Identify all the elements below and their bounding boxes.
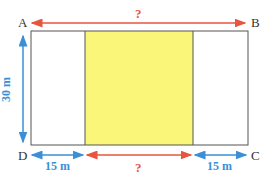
yellow-region — [85, 31, 193, 145]
vertex-c: C — [251, 148, 260, 164]
height-label: 30 m — [0, 77, 14, 102]
left-segment-label: 15 m — [45, 159, 70, 174]
rectangle-diagram — [0, 0, 267, 183]
top-length-label: ? — [135, 6, 142, 22]
vertex-d: D — [18, 148, 27, 164]
vertex-b: B — [251, 15, 260, 31]
right-segment-label: 15 m — [207, 159, 232, 174]
bottom-middle-length-label: ? — [135, 160, 142, 176]
vertex-a: A — [18, 15, 27, 31]
